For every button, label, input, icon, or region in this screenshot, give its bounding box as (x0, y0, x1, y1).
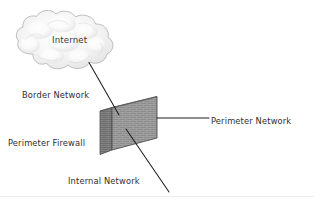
border-network-label: Border Network (22, 91, 89, 99)
internet-label: Internet (52, 36, 87, 45)
perimeter-firewall-label: Perimeter Firewall (8, 139, 85, 147)
perimeter-network-label: Perimeter Network (211, 117, 291, 125)
network-diagram: Internet Border Network Perimeter Firewa… (0, 0, 314, 202)
internal-network-label: Internal Network (68, 177, 140, 185)
diagram-canvas (0, 0, 314, 202)
border-network-line (89, 63, 119, 116)
perimeter-firewall-shape (98, 92, 164, 159)
